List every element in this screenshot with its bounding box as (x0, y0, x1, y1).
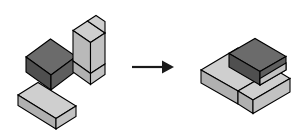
block-assembly-figure: Block assembly puzzle Three isometric bl… (0, 0, 301, 133)
puzzle-illustration (0, 0, 301, 133)
